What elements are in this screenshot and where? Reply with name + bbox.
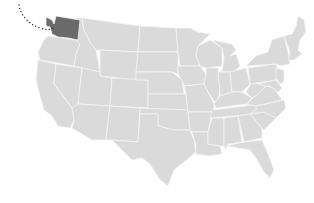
state-new-york[interactable]	[246, 36, 290, 66]
state-mississippi[interactable]	[208, 118, 224, 146]
state-wyoming[interactable]	[100, 50, 138, 80]
state-arizona[interactable]	[72, 104, 110, 140]
state-ohio[interactable]	[230, 68, 250, 92]
state-arkansas[interactable]	[188, 112, 212, 132]
state-florida[interactable]	[226, 140, 274, 178]
states	[36, 16, 306, 186]
state-new-mexico[interactable]	[106, 106, 140, 142]
state-south-dakota[interactable]	[136, 52, 178, 74]
state-north-dakota[interactable]	[138, 26, 178, 52]
us-map	[0, 0, 314, 203]
us-map-svg	[0, 0, 314, 203]
state-colorado[interactable]	[110, 78, 148, 108]
state-kansas[interactable]	[148, 94, 188, 110]
